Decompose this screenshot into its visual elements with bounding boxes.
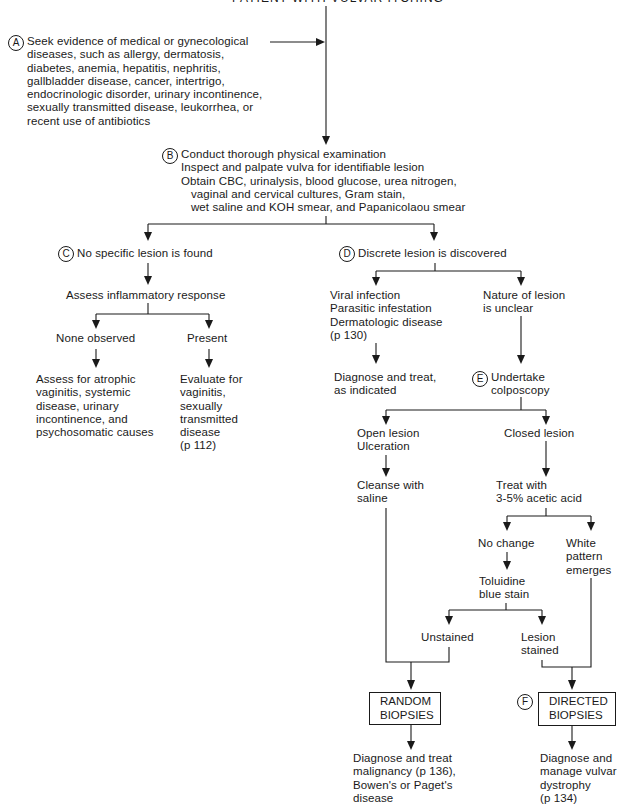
step-d-text: Discrete lesion is discovered: [358, 247, 507, 260]
diagnose-treat-as-indicated: Diagnose and treat, as indicated: [334, 371, 436, 398]
flowchart-title: PATIENT WITH VULVAR ITCHING: [232, 0, 444, 5]
step-marker-c: C: [58, 246, 74, 262]
open-lesion-ulceration: Open lesion Ulceration: [357, 427, 419, 454]
assess-atrophic-vaginitis: Assess for atrophic vaginitis, systemic …: [36, 373, 154, 439]
step-marker-e: E: [472, 371, 488, 387]
none-observed: None observed: [56, 332, 135, 345]
viral-parasitic-dermatologic: Viral infection Parasitic infestation De…: [330, 289, 443, 342]
step-marker-b: B: [162, 148, 178, 164]
white-pattern-emerges: White pattern emerges: [566, 537, 611, 577]
step-a-text: Seek evidence of medical or gynecologica…: [27, 35, 262, 128]
closed-lesion: Closed lesion: [504, 427, 574, 440]
treat-acetic-acid: Treat with 3-5% acetic acid: [496, 479, 582, 506]
assess-inflammatory-response: Assess inflammatory response: [66, 289, 225, 302]
lesion-stained: Lesion stained: [521, 631, 559, 658]
step-c-text: No specific lesion is found: [77, 247, 213, 260]
step-b-text: Conduct thorough physical examination In…: [181, 148, 465, 214]
evaluate-vaginitis: Evaluate for vaginitis, sexually transmi…: [180, 373, 243, 453]
toluidine-blue-stain: Toluidine blue stain: [479, 575, 529, 602]
cleanse-with-saline: Cleanse with saline: [357, 479, 424, 506]
directed-biopsies-box: DIRECTED BIOPSIES: [538, 692, 616, 726]
step-e-text: Undertake colposcopy: [491, 371, 550, 398]
diagnose-treat-malignancy: Diagnose and treat malignancy (p 136), B…: [353, 752, 456, 805]
nature-of-lesion-unclear: Nature of lesion is unclear: [483, 289, 565, 316]
step-marker-f: F: [517, 694, 533, 710]
step-marker-d: D: [339, 246, 355, 262]
present: Present: [187, 332, 227, 345]
unstained: Unstained: [421, 631, 474, 644]
random-biopsies-box: RANDOM BIOPSIES: [369, 692, 441, 725]
diagnose-manage-dystrophy: Diagnose and manage vulvar dystrophy (p …: [540, 752, 617, 805]
no-change: No change: [478, 537, 535, 550]
step-marker-a: A: [8, 35, 24, 51]
